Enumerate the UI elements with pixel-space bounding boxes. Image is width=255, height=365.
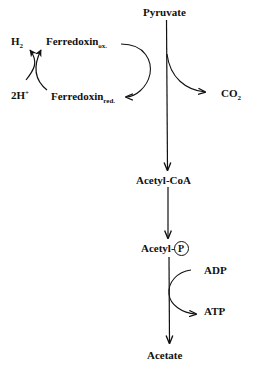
node-acetyl-phosphate: Acetyl-P <box>141 242 189 257</box>
label-ferredoxin-ox: Ferredoxinox. <box>46 36 107 50</box>
arrow-adp-to-atp <box>169 270 196 314</box>
label-h2: H2 <box>11 36 23 50</box>
arrow-2hplus-to-h2 <box>26 50 35 80</box>
arrow-acetylp-to-acetate <box>169 257 170 343</box>
label-co2: CO2 <box>221 88 241 102</box>
node-acetate: Acetate <box>147 350 182 361</box>
arrow-ferredoxin-reduction <box>121 44 150 97</box>
node-acetyl-coa: Acetyl-CoA <box>136 175 191 186</box>
label-adp: ADP <box>204 265 227 276</box>
arrow-co2-release <box>167 54 205 92</box>
arrow-pyruvate-to-acetylcoa <box>167 20 168 170</box>
phosphate-circle-icon: P <box>174 241 189 256</box>
label-ferredoxin-red: Ferredoxinred. <box>51 91 115 105</box>
arrow-ferredoxinred-to-ox <box>36 50 47 90</box>
node-pyruvate: Pyruvate <box>143 7 186 18</box>
label-atp: ATP <box>204 306 225 317</box>
label-2h-plus: 2H+ <box>11 90 29 101</box>
